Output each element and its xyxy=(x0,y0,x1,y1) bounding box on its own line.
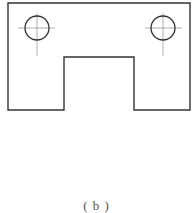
hole-left xyxy=(18,13,55,56)
plate-drawing xyxy=(0,0,193,213)
drawing-figure: ( b ) xyxy=(0,0,193,213)
holes-group xyxy=(18,13,182,56)
hole-right xyxy=(145,13,182,56)
figure-caption: ( b ) xyxy=(0,198,193,213)
